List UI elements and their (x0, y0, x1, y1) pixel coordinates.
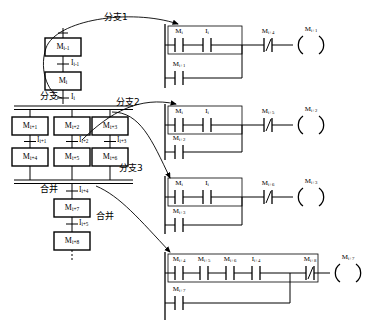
sfc-branch-marker: 分支 (40, 92, 58, 101)
rung2-coil-label: Mi+2 (305, 106, 318, 114)
ladder-contacts (175, 38, 314, 310)
sfc-step-4: Mi+3 (103, 122, 117, 131)
nc-slashes (266, 39, 313, 279)
rung1-interlock-label: Mi+4 (262, 28, 275, 36)
sfc-step-9: Mi+8 (65, 237, 79, 246)
rung2-parallel-0-label: Mi+2 (173, 135, 186, 143)
rung4-contact-3-label: Ii+4 (252, 256, 261, 264)
merge-convergence-bar (14, 180, 133, 184)
sfc-merge-marker: 合并 (40, 185, 58, 194)
rung1-contact-1-label: Ii (205, 28, 209, 36)
sfc-step-7: Mi+6 (103, 153, 117, 162)
rung3-coil-label: Mi+3 (305, 178, 318, 186)
sfc-transition-6: Ii+5 (79, 219, 88, 227)
rung1-parallel-0-label: Mi+1 (173, 61, 186, 69)
rung1-coil-label: Mi+1 (305, 26, 318, 34)
sfc-transition-2: Ii+1 (37, 136, 46, 144)
sfc-step-3: Mi+2 (65, 122, 79, 131)
diagram-root: Mi-1 Mi Mi+1 Mi+2 Mi+3 Mi+4 Mi+5 Mi+6 Mi… (0, 0, 373, 335)
sfc-transition-0: Ii-1 (71, 59, 79, 67)
rung2-interlock-label: Mi+5 (262, 108, 275, 116)
rung4-parallel-0-label: Mi+7 (173, 286, 186, 294)
rung3-parallel-0-label: Mi+3 (173, 208, 186, 216)
rung3-interlock-label: Mi+6 (262, 180, 275, 188)
sfc-transition-3: Ii+2 (79, 136, 88, 144)
sfc-step-2: Mi+1 (23, 122, 37, 131)
ladder-coils (298, 36, 360, 282)
sfc-step-5: Mi+4 (23, 153, 37, 162)
rung-group-boxes (168, 26, 318, 282)
annotation-branch-2: 分支2 (116, 98, 140, 107)
rung4-contact-2-label: Mi+6 (224, 256, 237, 264)
rung3-contact-1-label: Ii (205, 180, 209, 188)
rung2-contact-0-label: Mi (175, 108, 183, 116)
rung4-interlock-label: Mi+8 (304, 256, 317, 264)
sfc-step-0: Mi-1 (56, 43, 69, 52)
rung4-coil-label: Mi+7 (342, 254, 355, 262)
ladder-wires (165, 45, 330, 303)
rung2-contact-1-label: Ii (205, 108, 209, 116)
sfc-step-1: Mi (59, 77, 68, 86)
annotation-branch-3: 分支3 (119, 164, 143, 173)
rung1-contact-0-label: Mi (175, 28, 183, 36)
sfc-step-8: Mi+7 (65, 204, 79, 213)
rung4-contact-1-label: Mi+5 (198, 256, 211, 264)
rung3-contact-0-label: Mi (175, 180, 183, 188)
sfc-step-6: Mi+5 (65, 153, 79, 162)
rung4-contact-0-label: Mi+4 (173, 256, 186, 264)
sfc-transition-5: Ii+4 (79, 186, 88, 194)
annotation-merge: 合并 (96, 212, 114, 221)
sfc-transition-1: Ii (71, 93, 75, 101)
annotation-branch-1: 分支1 (104, 13, 128, 22)
sfc-transition-4: Ii+3 (117, 136, 126, 144)
